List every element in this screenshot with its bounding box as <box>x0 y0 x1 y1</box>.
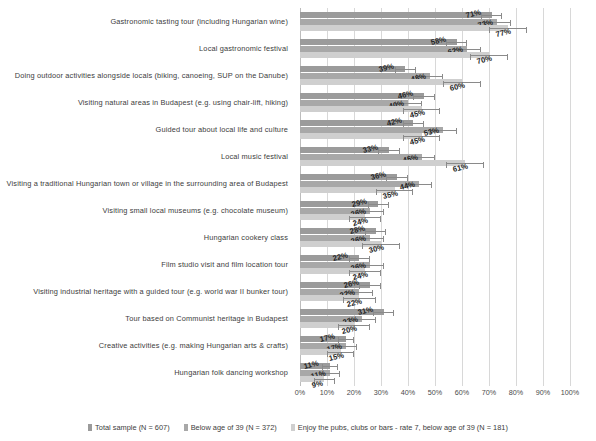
error-cap-high <box>434 94 435 100</box>
category-label: Visiting small local museums (e.g. choco… <box>4 197 288 224</box>
error-bar-series-0 <box>349 258 371 259</box>
bar-group: 46%40%45% <box>300 89 570 116</box>
legend-label: Enjoy the pubs, clubs or bars - rate 7, … <box>298 423 508 432</box>
x-axis: 0%10%20%30%40%50%60%70%80%90%100% <box>300 386 570 404</box>
category-label: Visiting a traditional Hungarian town or… <box>4 170 288 197</box>
category-label-text: Guided tour about local life and culture <box>156 125 288 134</box>
legend-item-1[interactable]: Below age of 39 (N = 372) <box>184 423 277 432</box>
error-cap-high <box>372 290 373 296</box>
x-tick-label: 10% <box>320 388 334 397</box>
bar-group: 58%62%70% <box>300 35 570 62</box>
error-cap-high <box>334 378 335 384</box>
bar-group: 11%11%9% <box>300 359 570 386</box>
error-cap-low <box>349 216 350 222</box>
legend-swatch-icon <box>88 424 92 431</box>
category-label-text: Hungarian cookery class <box>204 233 288 242</box>
error-cap-low <box>343 297 344 303</box>
error-cap-low <box>470 54 471 60</box>
x-tick-label: 80% <box>509 388 523 397</box>
bar-group: 22%26%24% <box>300 251 570 278</box>
error-cap-high <box>483 162 484 168</box>
error-cap-high <box>375 297 376 303</box>
error-bar-series-0 <box>365 231 387 232</box>
error-cap-low <box>338 324 339 330</box>
x-tick-label: 30% <box>374 388 388 397</box>
error-bar-series-0 <box>413 96 435 97</box>
category-label: Visiting natural areas in Budapest (e.g.… <box>4 89 288 116</box>
category-label: Hungarian cookery class <box>4 224 288 251</box>
category-label: Hungarian folk dancing workshop <box>4 359 288 386</box>
error-cap-high <box>375 317 376 323</box>
error-cap-high <box>507 54 508 60</box>
error-cap-low <box>403 108 404 114</box>
bar-group: 33%45%61% <box>300 143 570 170</box>
bar-group: 28%26%30% <box>300 224 570 251</box>
error-bar-series-0 <box>338 339 354 340</box>
legend-item-0[interactable]: Total sample (N = 607) <box>88 423 170 432</box>
error-cap-low <box>376 189 377 195</box>
error-bar-series-0 <box>481 15 503 16</box>
error-bar-series-0 <box>359 285 381 286</box>
error-cap-low <box>489 27 490 33</box>
legend-label: Total sample (N = 607) <box>95 423 170 432</box>
category-label-text: Visiting a traditional Hungarian town or… <box>7 179 288 188</box>
error-bar-series-0 <box>446 42 468 43</box>
error-bar-series-0 <box>373 312 395 313</box>
category-label-text: Gastronomic tasting tour (including Hung… <box>110 17 288 26</box>
x-tick-label: 70% <box>482 388 496 397</box>
category-label: Guided tour about local life and culture <box>4 116 288 143</box>
x-tick-label: 0% <box>295 388 305 397</box>
error-cap-high <box>412 189 413 195</box>
category-label: Doing outdoor activities alongside local… <box>4 62 288 89</box>
bar-series-2 <box>300 79 462 85</box>
bar-series-2 <box>300 160 465 166</box>
error-cap-high <box>439 135 440 141</box>
error-cap-high <box>339 371 340 377</box>
error-cap-high <box>510 20 511 26</box>
bar-group: 17%17%15% <box>300 332 570 359</box>
error-cap-high <box>439 108 440 114</box>
x-tick-label: 20% <box>347 388 361 397</box>
error-cap-high <box>383 263 384 269</box>
category-label: Creative activities (e.g. making Hungari… <box>4 332 288 359</box>
bar-group: 31%23%20% <box>300 305 570 332</box>
error-cap-high <box>456 128 457 134</box>
legend-swatch-icon <box>184 424 188 431</box>
legend-item-2[interactable]: Enjoy the pubs, clubs or bars - rate 7, … <box>291 423 508 432</box>
bar-series-1 <box>300 46 467 52</box>
x-tick-label: 90% <box>536 388 550 397</box>
category-label: Gastronomic tasting tour (including Hung… <box>4 8 288 35</box>
x-tick-label: 40% <box>401 388 415 397</box>
error-cap-low <box>362 243 363 249</box>
error-cap-low <box>403 135 404 141</box>
error-cap-high <box>526 27 527 33</box>
error-bar-series-0 <box>403 123 425 124</box>
bar-group: 36%44%35% <box>300 170 570 197</box>
category-label-text: Visiting small local museums (e.g. choco… <box>103 206 288 215</box>
category-label: Visiting industrial heritage with a guid… <box>4 278 288 305</box>
error-cap-high <box>337 364 338 370</box>
error-cap-high <box>501 13 502 19</box>
error-cap-high <box>380 283 381 289</box>
category-label-text: Hungarian folk dancing workshop <box>174 368 288 377</box>
category-label: Tour based on Communist heritage in Buda… <box>4 305 288 332</box>
category-label-text: Visiting natural areas in Budapest (e.g.… <box>78 98 288 107</box>
error-cap-high <box>480 81 481 87</box>
category-label-column: Gastronomic tasting tour (including Hung… <box>0 8 294 386</box>
bar-chart: Gastronomic tasting tour (including Hung… <box>0 0 596 441</box>
category-label-text: Film studio visit and film location tour <box>161 260 288 269</box>
error-cap-high <box>393 310 394 316</box>
x-tick-label: 50% <box>428 388 442 397</box>
error-cap-high <box>380 216 381 222</box>
category-label-text: Visiting industrial heritage with a guid… <box>33 287 288 296</box>
x-tick-label: 60% <box>455 388 469 397</box>
error-cap-high <box>431 182 432 188</box>
error-bar-series-0 <box>378 150 400 151</box>
category-label: Film studio visit and film location tour <box>4 251 288 278</box>
category-label-text: Local music festival <box>221 152 288 161</box>
bar-series-2 <box>300 52 489 58</box>
error-bar-series-0 <box>368 204 390 205</box>
error-cap-high <box>388 202 389 208</box>
error-cap-low <box>443 81 444 87</box>
category-label-text: Creative activities (e.g. making Hungari… <box>99 341 288 350</box>
